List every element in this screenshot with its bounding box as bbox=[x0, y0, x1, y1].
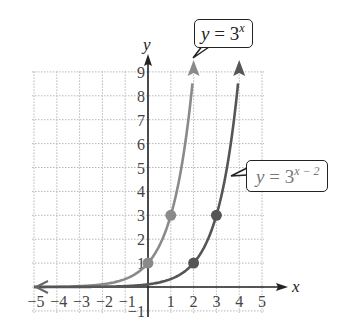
callout1-exponent: x bbox=[239, 21, 244, 35]
curve-arrow-icon bbox=[188, 60, 200, 76]
y-tick-label: 7 bbox=[137, 112, 145, 129]
x-tick-label: 5 bbox=[258, 293, 266, 310]
callout2-exponent: x − 2 bbox=[294, 164, 319, 178]
data-point bbox=[165, 210, 176, 221]
y-tick-label: 5 bbox=[137, 160, 145, 177]
y-tick-label: 3 bbox=[137, 207, 145, 224]
data-point bbox=[211, 210, 222, 221]
data-point bbox=[143, 258, 154, 269]
curve-3-to-x bbox=[34, 83, 192, 287]
x-tick-label: −3 bbox=[73, 293, 90, 310]
curve-arrow-icon bbox=[233, 60, 245, 76]
y-tick-label: 9 bbox=[137, 64, 145, 81]
x-tick-label: −4 bbox=[50, 293, 67, 310]
y-axis-label: y bbox=[141, 35, 151, 54]
callout-y-equals-3-to-x-minus-2: y = 3x − 2 bbox=[246, 160, 328, 192]
y-tick-label: 4 bbox=[137, 183, 145, 200]
x-tick-label: 1 bbox=[167, 293, 175, 310]
callout-y-equals-3-to-x: y = 3x bbox=[194, 19, 253, 48]
y-tick-label: 8 bbox=[137, 88, 145, 105]
x-axis-label: x bbox=[291, 277, 300, 296]
callout1-eq: = 3 bbox=[209, 23, 239, 44]
y-tick-label: 2 bbox=[137, 231, 145, 248]
x-tick-label: −2 bbox=[96, 293, 113, 310]
callout2-eq: = 3 bbox=[264, 166, 294, 187]
x-tick-label: 2 bbox=[190, 293, 198, 310]
x-tick-label: 3 bbox=[212, 293, 220, 310]
x-tick-label: 4 bbox=[235, 293, 243, 310]
y-tick-label: −1 bbox=[128, 303, 145, 320]
x-tick-label: −5 bbox=[27, 293, 44, 310]
data-point bbox=[188, 258, 199, 269]
y-tick-label: 6 bbox=[137, 136, 145, 153]
callout2-pointer bbox=[231, 168, 247, 176]
